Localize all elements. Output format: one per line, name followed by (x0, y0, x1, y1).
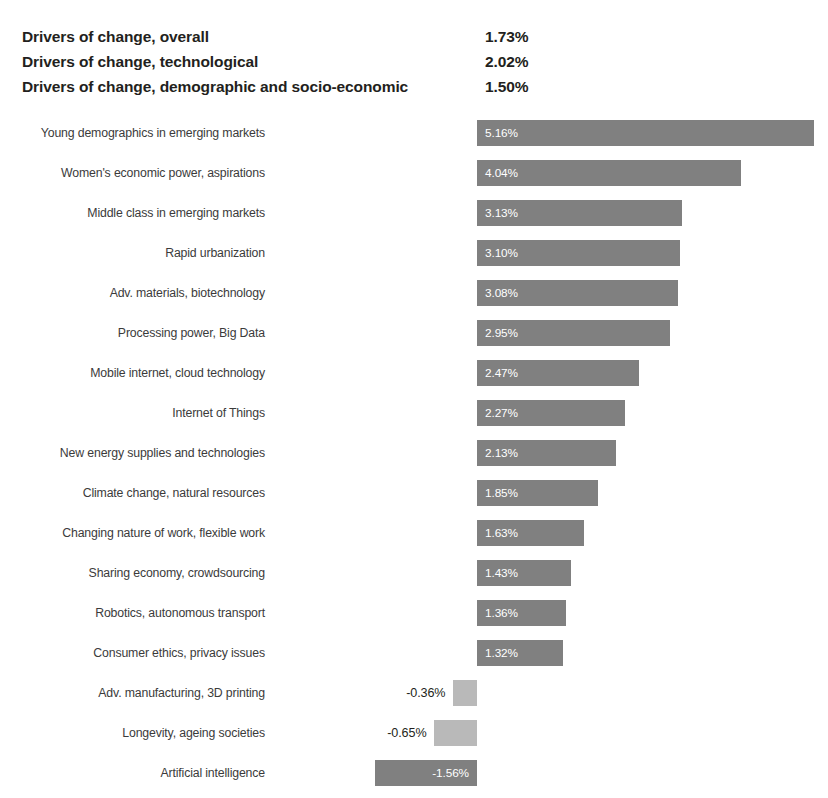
bar-value-label: 2.13% (485, 440, 518, 466)
category-label: Internet of Things (0, 393, 265, 433)
bar-value-label: 1.32% (485, 640, 518, 666)
summary-value: 1.50% (485, 74, 528, 99)
category-label: New energy supplies and technologies (0, 433, 265, 473)
category-label: Changing nature of work, flexible work (0, 513, 265, 553)
category-label: Climate change, natural resources (0, 473, 265, 513)
bar (477, 120, 814, 146)
chart-row: Adv. materials, biotechnology3.08% (0, 273, 828, 313)
bar-value-label: 1.36% (485, 600, 518, 626)
chart-row: Robotics, autonomous transport1.36% (0, 593, 828, 633)
chart-row: Changing nature of work, flexible work1.… (0, 513, 828, 553)
bar-value-label: 2.47% (485, 360, 518, 386)
chart-row: New energy supplies and technologies2.13… (0, 433, 828, 473)
category-label: Rapid urbanization (0, 233, 265, 273)
chart-row: Artificial intelligence-1.56% (0, 753, 828, 793)
category-label: Young demographics in emerging markets (0, 113, 265, 153)
chart-row: Adv. manufacturing, 3D printing-0.36% (0, 673, 828, 713)
chart-row: Sharing economy, crowdsourcing1.43% (0, 553, 828, 593)
bar-value-label: 2.27% (485, 400, 518, 426)
chart-row: Middle class in emerging markets3.13% (0, 193, 828, 233)
chart-row: Consumer ethics, privacy issues1.32% (0, 633, 828, 673)
summary-label: Drivers of change, technological (22, 49, 258, 74)
category-label: Adv. manufacturing, 3D printing (0, 673, 265, 713)
horizontal-bar-chart: Young demographics in emerging markets5.… (0, 113, 828, 798)
chart-row: Processing power, Big Data2.95% (0, 313, 828, 353)
category-label: Sharing economy, crowdsourcing (0, 553, 265, 593)
category-label: Mobile internet, cloud technology (0, 353, 265, 393)
category-label: Middle class in emerging markets (0, 193, 265, 233)
bar-value-label: -0.65% (344, 720, 426, 746)
summary-value: 1.73% (485, 24, 528, 49)
bar-value-label: 3.10% (485, 240, 518, 266)
bar-value-label: 1.43% (485, 560, 518, 586)
category-label: Adv. materials, biotechnology (0, 273, 265, 313)
summary-row: Drivers of change, demographic and socio… (0, 74, 828, 99)
summary-value: 2.02% (485, 49, 528, 74)
bar-value-label: -0.36% (363, 680, 445, 706)
summary-row: Drivers of change, technological2.02% (0, 49, 828, 74)
bar-value-label: 3.08% (485, 280, 518, 306)
bar-value-label: 5.16% (485, 120, 518, 146)
chart-row: Climate change, natural resources1.85% (0, 473, 828, 513)
category-label: Robotics, autonomous transport (0, 593, 265, 633)
category-label: Longevity, ageing societies (0, 713, 265, 753)
bar-value-label: 2.95% (485, 320, 518, 346)
chart-row: Rapid urbanization3.10% (0, 233, 828, 273)
chart-row: Internet of Things2.27% (0, 393, 828, 433)
category-label: Women's economic power, aspirations (0, 153, 265, 193)
category-label: Artificial intelligence (0, 753, 265, 793)
chart-row: Young demographics in emerging markets5.… (0, 113, 828, 153)
summary-label: Drivers of change, demographic and socio… (22, 74, 408, 99)
chart-row: Women's economic power, aspirations4.04% (0, 153, 828, 193)
bar (434, 720, 477, 746)
bar-value-label: -1.56% (375, 760, 469, 786)
bar-value-label: 1.85% (485, 480, 518, 506)
category-label: Consumer ethics, privacy issues (0, 633, 265, 673)
summary-header: Drivers of change, overall1.73%Drivers o… (0, 0, 828, 99)
summary-row: Drivers of change, overall1.73% (0, 24, 828, 49)
bar (453, 680, 477, 706)
bar-value-label: 4.04% (485, 160, 518, 186)
summary-label: Drivers of change, overall (22, 24, 209, 49)
chart-row: Mobile internet, cloud technology2.47% (0, 353, 828, 393)
bar-value-label: 1.63% (485, 520, 518, 546)
category-label: Processing power, Big Data (0, 313, 265, 353)
chart-row: Longevity, ageing societies-0.65% (0, 713, 828, 753)
bar-value-label: 3.13% (485, 200, 518, 226)
